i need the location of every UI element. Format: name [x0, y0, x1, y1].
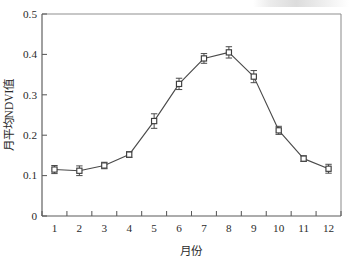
x-tick-label-1: 1 [52, 222, 58, 234]
data-marker-month-4 [127, 152, 132, 157]
x-tick-label-5: 5 [151, 222, 157, 234]
x-tick-label-9: 9 [251, 222, 257, 234]
y-tick-label-5: 0.5 [23, 8, 37, 20]
x-tick-label-6: 6 [176, 222, 182, 234]
x-tick-label-8: 8 [226, 222, 232, 234]
data-marker-month-3 [102, 163, 107, 168]
x-tick-label-12: 12 [323, 222, 334, 234]
data-marker-month-12 [326, 166, 331, 171]
x-tick-label-4: 4 [126, 222, 132, 234]
data-marker-month-8 [226, 50, 231, 55]
chart-canvas: 0 0.1 0.2 0.3 0.4 0.5 123456789101112 月份… [0, 0, 349, 261]
x-tick-label-11: 11 [298, 222, 309, 234]
data-marker-month-6 [176, 81, 181, 86]
x-axis-title: 月份 [180, 245, 203, 257]
data-marker-month-2 [77, 168, 82, 173]
y-tick-label-1: 0.1 [23, 169, 37, 181]
ndvi-monthly-line-chart: 0 0.1 0.2 0.3 0.4 0.5 123456789101112 月份… [0, 0, 349, 261]
data-marker-month-1 [52, 167, 57, 172]
data-marker-month-11 [301, 156, 306, 161]
y-tick-label-4: 0.4 [23, 48, 37, 60]
y-tick-label-3: 0.3 [23, 89, 37, 101]
x-tick-label-3: 3 [101, 222, 107, 234]
x-tick-label-7: 7 [201, 222, 207, 234]
x-tick-label-2: 2 [77, 222, 83, 234]
y-tick-label-2: 0.2 [23, 129, 37, 141]
data-marker-month-7 [201, 56, 206, 61]
data-marker-month-5 [152, 118, 157, 123]
data-marker-month-10 [276, 128, 281, 133]
y-tick-label-0: 0 [31, 210, 37, 222]
x-tick-label-10: 10 [273, 222, 285, 234]
data-marker-month-9 [251, 74, 256, 79]
y-axis-title: 月平均NDVI值 [3, 78, 15, 152]
